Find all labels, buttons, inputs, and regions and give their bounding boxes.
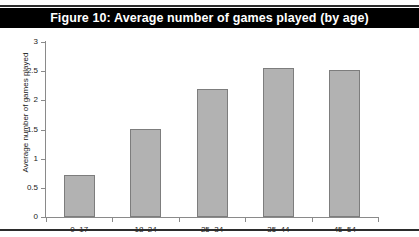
x-axis-tick <box>378 218 379 222</box>
bar <box>197 89 228 217</box>
y-axis-tick-label: 0.5 <box>0 184 38 192</box>
top-rule <box>0 5 419 7</box>
x-axis-line <box>45 217 379 218</box>
bar-chart: 00.511.522.53 0–1718–2425–3435–4445–54 A… <box>0 30 419 227</box>
y-axis-tick <box>41 188 45 189</box>
bottom-rule <box>0 229 419 231</box>
x-axis-tick <box>179 218 180 222</box>
y-axis-tick <box>41 100 45 101</box>
y-axis-tick <box>41 217 45 218</box>
y-axis-tick-label: 2.5 <box>0 67 38 75</box>
y-axis-tick-label: 1 <box>0 155 38 163</box>
plot-area <box>46 42 378 217</box>
y-axis-tick <box>41 159 45 160</box>
bar <box>263 68 294 217</box>
y-axis-tick-label: 1.5 <box>0 126 38 134</box>
x-axis-tick <box>112 218 113 222</box>
y-axis-tick-label: 0 <box>0 213 38 221</box>
y-axis-tick <box>41 71 45 72</box>
figure-container: Figure 10: Average number of games playe… <box>0 0 419 237</box>
x-axis-tick <box>312 218 313 222</box>
y-axis-tick-label: 2 <box>0 96 38 104</box>
bar <box>64 175 95 217</box>
bar <box>130 129 161 217</box>
y-axis-tick <box>41 42 45 43</box>
figure-title-band: Figure 10: Average number of games playe… <box>0 8 419 28</box>
y-axis-tick <box>41 130 45 131</box>
x-axis-tick <box>46 218 47 222</box>
bar <box>329 70 360 217</box>
y-axis-tick-label: 3 <box>0 38 38 46</box>
y-axis-title: Average number of games played <box>21 33 30 193</box>
x-axis-tick <box>245 218 246 222</box>
figure-title: Figure 10: Average number of games playe… <box>0 8 419 28</box>
